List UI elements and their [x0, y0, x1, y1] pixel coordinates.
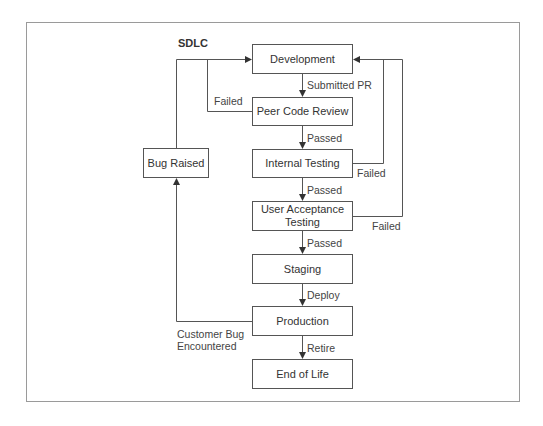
edge-label-customer-bug-line1: Customer Bug [177, 328, 244, 340]
node-internal-testing-label: Internal Testing [265, 157, 339, 170]
node-end-of-life: End of Life [252, 359, 353, 389]
node-uat-label-line1: User Acceptance [261, 203, 344, 216]
node-development-label: Development [270, 53, 335, 66]
node-user-acceptance-testing: User Acceptance Testing [252, 201, 353, 231]
node-production: Production [252, 306, 353, 336]
node-peer-code-review-label: Peer Code Review [257, 105, 349, 118]
diagram-title: SDLC [178, 37, 208, 49]
edge-label-internal-failed: Failed [357, 167, 386, 179]
node-staging-label: Staging [284, 263, 321, 276]
edge-label-customer-bug: Customer Bug Encountered [177, 328, 244, 352]
edge-label-retire: Retire [307, 342, 335, 354]
edge-label-review-failed: Failed [214, 95, 243, 107]
edge-label-deploy: Deploy [307, 289, 340, 301]
node-end-of-life-label: End of Life [276, 368, 329, 381]
node-uat-label-line2: Testing [285, 216, 320, 229]
edge-label-internal-passed: Passed [307, 184, 342, 196]
node-development: Development [252, 44, 353, 74]
node-production-label: Production [276, 315, 329, 328]
node-internal-testing: Internal Testing [252, 149, 353, 178]
node-staging: Staging [252, 254, 353, 284]
edge-label-uat-failed: Failed [372, 220, 401, 232]
node-peer-code-review: Peer Code Review [252, 97, 353, 126]
node-bug-raised: Bug Raised [143, 148, 209, 178]
edge-label-uat-passed: Passed [307, 237, 342, 249]
edge-label-submitted-pr: Submitted PR [307, 79, 372, 91]
edge-label-review-passed: Passed [307, 132, 342, 144]
node-bug-raised-label: Bug Raised [148, 157, 205, 170]
edge-label-customer-bug-line2: Encountered [177, 340, 244, 352]
